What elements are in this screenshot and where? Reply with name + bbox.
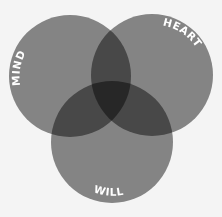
venn-diagram: MIND HEART WILL (0, 0, 222, 217)
circle-group (9, 14, 213, 203)
venn-svg: MIND HEART WILL (0, 0, 222, 217)
circle-will (51, 81, 173, 203)
